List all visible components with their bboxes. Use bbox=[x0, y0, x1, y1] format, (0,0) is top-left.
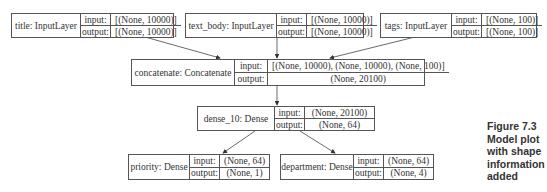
caption-line: added bbox=[487, 170, 545, 183]
input-label: input: bbox=[81, 14, 110, 25]
figure-caption: Figure 7.3 Model plot with shape informa… bbox=[487, 120, 545, 183]
output-shape: [(None, 10000)] bbox=[307, 25, 377, 37]
output-label: output: bbox=[277, 25, 306, 37]
node-tags-inputlayer: tags: InputLayer input: output: [(None, … bbox=[380, 13, 537, 38]
caption-line: Model plot bbox=[487, 133, 545, 146]
node-name: department: Dense bbox=[281, 155, 354, 179]
node-name: title: InputLayer bbox=[12, 14, 81, 37]
node-name: priority: Dense bbox=[129, 155, 190, 179]
output-label: output: bbox=[452, 25, 481, 37]
caption-line: Figure 7.3 bbox=[487, 120, 545, 133]
edge-tags-to-concatenate bbox=[330, 37, 415, 58]
output-label: output: bbox=[81, 25, 110, 37]
edge-dense-to-priority bbox=[223, 131, 255, 153]
input-shape: (None, 64) bbox=[384, 155, 433, 167]
output-shape: (None, 4) bbox=[384, 167, 433, 180]
output-shape: [(None, 100)] bbox=[482, 25, 542, 37]
input-shape: [(None, 10000), (None, 10000), (None, 10… bbox=[268, 60, 449, 72]
output-label: output: bbox=[354, 167, 383, 180]
output-shape: (None, 1) bbox=[220, 167, 269, 180]
node-name: dense_10: Dense bbox=[198, 107, 275, 130]
input-shape: [(None, 10000)] bbox=[111, 14, 181, 25]
input-label: input: bbox=[275, 107, 304, 118]
node-priority-dense: priority: Dense input: output: (None, 64… bbox=[128, 154, 270, 180]
input-label: input: bbox=[277, 14, 306, 25]
input-shape: [(None, 10000)] bbox=[307, 14, 377, 25]
node-text-body-inputlayer: text_body: InputLayer input: output: [(N… bbox=[185, 13, 364, 38]
node-name: text_body: InputLayer bbox=[186, 14, 277, 37]
output-label: output: bbox=[275, 118, 304, 130]
output-shape: [(None, 10000)] bbox=[111, 25, 181, 37]
node-name: tags: InputLayer bbox=[381, 14, 452, 37]
input-label: input: bbox=[452, 14, 481, 25]
output-label: output: bbox=[190, 167, 219, 180]
node-dense-10: dense_10: Dense input: output: (None, 20… bbox=[197, 106, 375, 131]
output-shape: (None, 20100) bbox=[268, 72, 449, 85]
node-name: concatenate: Concatenate bbox=[132, 60, 235, 85]
node-title-inputlayer: title: InputLayer input: output: [(None,… bbox=[11, 13, 174, 38]
caption-line: information bbox=[487, 158, 545, 171]
output-label: output: bbox=[235, 72, 267, 85]
input-shape: (None, 64) bbox=[220, 155, 269, 167]
node-department-dense: department: Dense input: output: (None, … bbox=[280, 154, 434, 180]
edge-dense-to-department bbox=[300, 131, 335, 153]
node-concatenate: concatenate: Concatenate input: output: … bbox=[131, 59, 425, 86]
output-shape: (None, 64) bbox=[305, 118, 374, 130]
input-label: input: bbox=[235, 60, 267, 72]
edge-title-to-concatenate bbox=[145, 37, 220, 58]
input-shape: [(None, 100)] bbox=[482, 14, 542, 25]
input-shape: (None, 20100) bbox=[305, 107, 374, 118]
input-label: input: bbox=[354, 155, 383, 167]
caption-line: with shape bbox=[487, 145, 545, 158]
input-label: input: bbox=[190, 155, 219, 167]
